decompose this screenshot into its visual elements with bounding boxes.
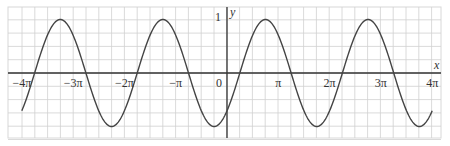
x-tick-label: −4π [12, 76, 31, 90]
x-tick-label: 0 [216, 76, 222, 90]
x-tick-label: −3π [64, 76, 83, 90]
x-tick-label: −2π [115, 76, 134, 90]
sine-graph: −4π−3π−2π−π0π2π3π4π 1 y x [0, 0, 450, 146]
y-tick-label-1: 1 [215, 10, 221, 24]
x-tick-label: π [275, 76, 281, 90]
x-tick-label: 3π [375, 76, 387, 90]
x-tick-label: −π [169, 76, 182, 90]
x-tick-label: 2π [324, 76, 336, 90]
x-tick-label: 4π [426, 76, 438, 90]
y-axis-label: y [229, 5, 236, 19]
x-axis-label: x [433, 58, 440, 72]
